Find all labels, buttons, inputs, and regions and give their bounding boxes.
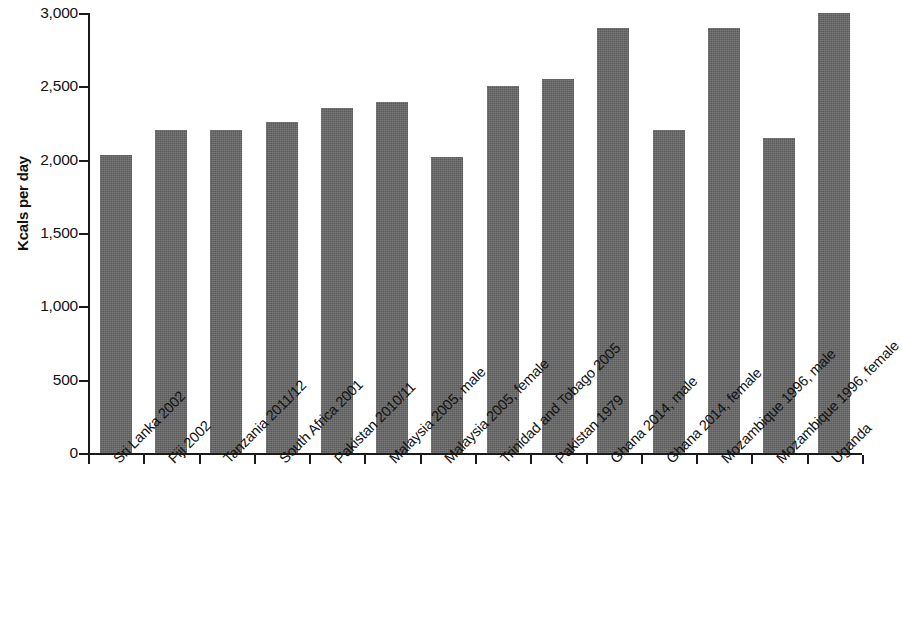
y-tick-mark xyxy=(79,306,88,308)
x-tick-label: Pakistan 1979 xyxy=(552,455,563,466)
y-tick-mark xyxy=(79,453,88,455)
y-tick-label: 1,500 xyxy=(16,225,78,241)
y-tick-label: 0 xyxy=(16,445,78,461)
x-tick-label: Mozambique 1996, male xyxy=(718,455,729,466)
y-axis-tick-labels: 05001,0001,5002,0002,5003,000 xyxy=(12,0,78,470)
y-tick-mark xyxy=(79,13,88,15)
y-tick-label: 2,500 xyxy=(16,78,78,94)
y-tick-label: 1,000 xyxy=(16,298,78,314)
bar xyxy=(597,28,629,453)
x-tick-label: Sri Lanka 2002 xyxy=(110,455,121,466)
y-tick-mark xyxy=(79,160,88,162)
x-tick-label: Ghana 2014, male xyxy=(607,455,618,466)
x-tick-label: Trinidad and Tobago 2005 xyxy=(497,455,508,466)
x-tick-label: Uganda xyxy=(828,455,839,466)
x-tick-label: Tanzania 2011/12 xyxy=(220,455,231,466)
x-axis-tick-labels: Sri Lanka 2002Fiji 2002Tanzania 2011/12S… xyxy=(88,455,878,642)
y-tick-mark xyxy=(79,86,88,88)
y-tick-label: 3,000 xyxy=(16,5,78,21)
y-tick-mark xyxy=(79,233,88,235)
x-tick-label: Pakistan 2010/11 xyxy=(331,455,342,466)
x-tick-label: Malaysia 2005, female xyxy=(441,455,452,466)
bar xyxy=(210,130,242,453)
y-tick-label: 2,000 xyxy=(16,152,78,168)
x-tick-label: Mozambique 1996, female xyxy=(773,455,784,466)
y-tick-label: 500 xyxy=(16,372,78,388)
x-tick-label: Ghana 2014, female xyxy=(663,455,674,466)
x-tick-label: Fiji 2002 xyxy=(165,455,176,466)
x-tick-label: Malaysia 2005, male xyxy=(386,455,397,466)
bar xyxy=(100,155,132,453)
y-tick-mark xyxy=(79,380,88,382)
x-tick-label: South Africa 2001 xyxy=(276,455,287,466)
